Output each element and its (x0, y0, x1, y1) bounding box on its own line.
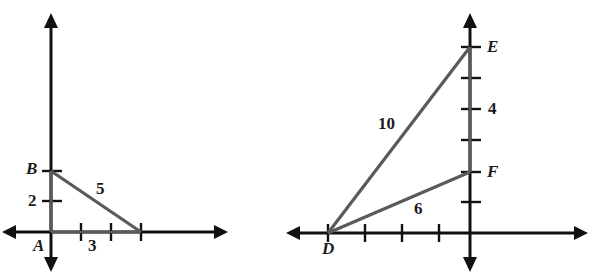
right-y-tick-label-4: 4 (488, 100, 497, 117)
geometry-figure-page: B 2 A 3 5 (0, 0, 600, 277)
right-x-axis-left-arrowhead (286, 226, 300, 240)
right-segment-label-10: 10 (378, 115, 395, 132)
right-vertex-label-d: D (322, 240, 334, 257)
right-coordinate-figure: E 4 F D 10 6 (0, 0, 600, 277)
right-y-axis-bottom-arrowhead (463, 257, 477, 272)
right-y-axis-top-arrowhead (463, 13, 477, 28)
right-triangle (328, 47, 470, 233)
right-segment-de (328, 47, 470, 233)
right-segment-label-6: 6 (414, 200, 423, 217)
right-x-axis-right-arrowhead (574, 226, 588, 240)
right-vertex-label-f: F (487, 163, 498, 180)
right-vertex-label-e: E (487, 38, 498, 55)
